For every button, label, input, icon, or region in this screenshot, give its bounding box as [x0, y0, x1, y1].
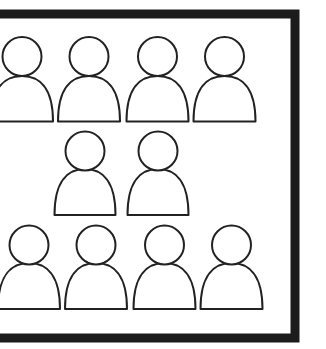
person-body [134, 263, 196, 309]
person-body [201, 263, 263, 309]
person-body [65, 263, 127, 309]
person-body [55, 169, 116, 215]
person-head [138, 37, 177, 76]
person-body [0, 263, 60, 309]
person-head [139, 132, 178, 171]
person-icon [201, 226, 263, 310]
people-diagram [0, 0, 326, 349]
person-head [212, 226, 251, 265]
person-body [128, 169, 189, 215]
person-body [58, 76, 120, 122]
person-icon [194, 37, 256, 122]
person-body [0, 76, 53, 122]
person-icon [0, 226, 60, 310]
people-group [0, 37, 263, 309]
person-body [127, 76, 189, 122]
person-icon [55, 132, 116, 216]
person-icon [0, 37, 53, 122]
person-head [70, 37, 109, 76]
person-head [77, 226, 116, 265]
person-icon [134, 226, 196, 310]
person-icon [127, 37, 189, 122]
person-icon [58, 37, 120, 122]
person-head [66, 132, 105, 171]
person-head [3, 37, 42, 76]
person-body [194, 76, 256, 122]
person-icon [128, 132, 189, 216]
person-icon [65, 226, 127, 310]
person-head [205, 37, 244, 76]
person-head [10, 226, 49, 265]
person-head [145, 226, 184, 265]
